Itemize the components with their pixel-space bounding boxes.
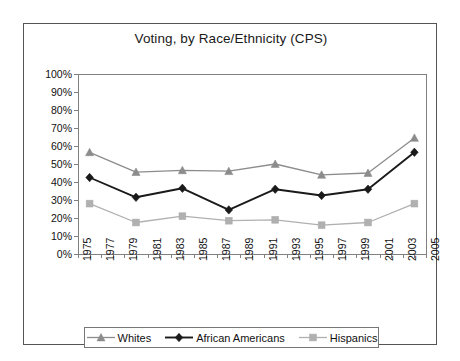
data-point-marker bbox=[225, 217, 232, 224]
axes-group bbox=[74, 75, 427, 259]
x-axis-tick-label: 1975 bbox=[82, 238, 92, 261]
y-axis-tick-label: 60% bbox=[36, 141, 72, 151]
x-axis-tick-label: 1993 bbox=[291, 238, 301, 261]
y-axis-tick-label: 50% bbox=[36, 159, 72, 169]
x-axis-tick-label: 1981 bbox=[152, 238, 162, 261]
y-axis-tick-label: 80% bbox=[36, 105, 72, 115]
y-axis-tick-label: 0% bbox=[36, 249, 72, 259]
legend-swatch-square-icon bbox=[298, 332, 328, 343]
legend-label: Hispanics bbox=[330, 332, 378, 344]
x-axis-tick-label: 1989 bbox=[244, 238, 254, 261]
data-point-marker bbox=[318, 222, 325, 229]
y-axis-tick-label: 10% bbox=[36, 231, 72, 241]
y-axis-tick-label: 20% bbox=[36, 213, 72, 223]
data-point-marker bbox=[175, 333, 183, 341]
data-point-marker bbox=[411, 200, 418, 207]
x-axis-tick-label: 1977 bbox=[105, 238, 115, 261]
data-point-marker bbox=[179, 213, 186, 220]
x-axis-tick-label: 2003 bbox=[407, 238, 417, 261]
plot-area: 100%90%80%70%60%50%40%30%20%10%0% 197519… bbox=[24, 24, 438, 346]
chart-frame: Voting, by Race/Ethnicity (CPS) 100%90%8… bbox=[23, 23, 437, 345]
y-axis-tick-label: 100% bbox=[36, 69, 72, 79]
y-axis-tick-label: 90% bbox=[36, 87, 72, 97]
legend-swatch-diamond-icon bbox=[164, 332, 194, 343]
legend-swatch-triangle-icon bbox=[86, 332, 116, 343]
data-point-marker bbox=[133, 219, 140, 226]
x-axis-tick-label: 1995 bbox=[314, 238, 324, 261]
y-axis-tick-label: 70% bbox=[36, 123, 72, 133]
chart-legend: WhitesAfrican AmericansHispanics bbox=[84, 327, 379, 348]
data-point-marker bbox=[272, 216, 279, 223]
x-axis-tick-label: 1999 bbox=[360, 238, 370, 261]
data-point-marker bbox=[365, 219, 372, 226]
y-axis-tick-label: 40% bbox=[36, 177, 72, 187]
legend-item-african-americans[interactable]: African Americans bbox=[164, 332, 285, 344]
x-axis-tick-label: 1987 bbox=[221, 238, 231, 261]
legend-label: Whites bbox=[118, 332, 152, 344]
x-axis-tick-label: 2005 bbox=[430, 238, 440, 261]
plot-border bbox=[79, 75, 427, 255]
chart-plot-svg bbox=[24, 24, 438, 346]
legend-item-whites[interactable]: Whites bbox=[86, 332, 152, 344]
x-axis-tick-label: 1983 bbox=[175, 238, 185, 261]
legend-label: African Americans bbox=[196, 332, 285, 344]
x-axis-tick-label: 1991 bbox=[268, 238, 278, 261]
data-point-marker bbox=[309, 334, 316, 341]
y-axis-tick-label: 30% bbox=[36, 195, 72, 205]
data-point-marker bbox=[86, 200, 93, 207]
x-axis-tick-label: 2001 bbox=[384, 238, 394, 261]
x-axis-tick-label: 1979 bbox=[128, 238, 138, 261]
x-axis-tick-label: 1985 bbox=[198, 238, 208, 261]
legend-item-hispanics[interactable]: Hispanics bbox=[298, 332, 378, 344]
x-axis-tick-label: 1997 bbox=[337, 238, 347, 261]
